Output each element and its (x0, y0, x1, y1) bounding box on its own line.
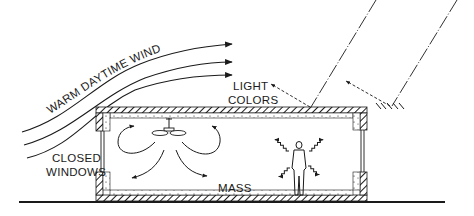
right-closed-window (361, 130, 364, 172)
right-wall-lower (360, 172, 367, 195)
light-colors-label-line1: LIGHT (233, 80, 268, 92)
roof-slab (96, 107, 367, 113)
left-wall-upper (96, 113, 103, 131)
right-wall-upper (360, 113, 367, 130)
closed-windows-label-line1: CLOSED (52, 152, 101, 164)
air-circulation-arrows (118, 126, 220, 178)
mass-label: MASS (218, 182, 252, 194)
reflected-light-arrows (271, 81, 390, 107)
floor-slab (96, 195, 367, 201)
light-colors-label-line2: COLORS (228, 94, 278, 106)
sun-rays (311, 0, 457, 107)
ceiling-fan-icon (152, 118, 186, 136)
closed-windows-label-line2: WINDOWS (46, 166, 106, 178)
wind-label: WARM DAYTIME WIND (45, 42, 163, 116)
occupant-figure-icon (292, 142, 306, 196)
passive-cooling-diagram: WARM DAYTIME WIND LIGHT COLORS (0, 0, 474, 216)
